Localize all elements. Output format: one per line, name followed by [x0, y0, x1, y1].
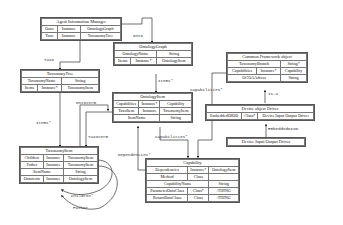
- agent-information-manager-box: Agent Information Manager Onto Instance …: [40, 17, 122, 41]
- field-name: Method: [147, 174, 188, 181]
- field-kind: Instance*: [131, 58, 156, 65]
- field-type: TaxonomyItem: [63, 155, 97, 162]
- field-type: String: [160, 115, 192, 122]
- field-name: ReturnDataClass: [147, 195, 188, 202]
- field-name: EmbeddedDIOD: [207, 113, 242, 120]
- field-kind: Class*: [242, 113, 258, 120]
- field-name: TaxonomyName: [22, 78, 62, 85]
- ontology-item-box: OntologyItem Capabilities Instance* Capa…: [112, 92, 193, 123]
- box-title: Device Input Output Driver: [228, 139, 305, 146]
- ontology-graph-box: OntologyGraph OntologyName String Items …: [113, 42, 193, 66]
- field-kind: Class*: [188, 188, 209, 195]
- field-name: Ontoterm: [21, 176, 44, 183]
- field-kind: Instance*: [188, 167, 209, 174]
- field-name: OCOAAdress: [228, 75, 281, 82]
- field-type: Capability: [160, 101, 192, 108]
- field-type: String: [209, 181, 239, 188]
- edge-label-taxo: Taxo: [44, 58, 54, 62]
- field-type: :THING: [209, 188, 239, 195]
- box-title: Capability: [147, 160, 239, 167]
- field-kind: Instance: [43, 162, 63, 169]
- edge-label-embedded-diod: EmbeddedDIOD: [268, 127, 298, 131]
- field-name: Items: [22, 85, 38, 92]
- field-type: TaxonomyItem: [62, 85, 99, 92]
- field-type: OntologyItem: [63, 176, 97, 183]
- field-type: String: [156, 51, 191, 58]
- edge-label-items-onto: Items*: [158, 79, 173, 83]
- edge-label-dependencies: Dependencies*: [118, 153, 151, 157]
- field-type: String: [63, 169, 97, 176]
- field-type: OntologyGraph: [80, 26, 120, 33]
- field-kind: Class: [188, 195, 209, 202]
- field-name: Items: [115, 58, 131, 65]
- edge-capabilities-onto: [160, 127, 188, 157]
- box-title: Agent Information Manager: [42, 19, 121, 26]
- field-name: Father: [21, 162, 44, 169]
- box-title: OntologyGraph: [115, 44, 192, 51]
- field-type: String*: [281, 61, 307, 68]
- field-kind: Instance*: [257, 68, 281, 75]
- edge-label-father: Father: [73, 206, 88, 210]
- box-title: TaxonomyItem: [21, 148, 98, 155]
- field-name: Capabilities: [228, 68, 257, 75]
- edge-label-children: Children*: [71, 194, 94, 198]
- taxonomy-tree-box: TaxonomyTree TaxonomyName String Items I…: [20, 69, 100, 93]
- device-object-driver-box: Device object Driver EmbeddedDIOD Class*…: [205, 104, 315, 121]
- field-kind: Instance: [43, 155, 63, 162]
- field-kind: Instance*: [139, 101, 160, 108]
- field-kind: Instance: [57, 26, 80, 33]
- field-type: OntologyItem: [209, 167, 239, 174]
- field-name: ItemName: [21, 169, 64, 176]
- edge-taxo: [60, 41, 80, 69]
- field-name: Taxo: [42, 33, 58, 40]
- field-type: String: [281, 75, 307, 82]
- field-type: Capability: [281, 68, 307, 75]
- field-name: TaxoItem: [114, 108, 139, 115]
- edge-onto: [122, 18, 152, 42]
- field-kind: Instance: [43, 176, 63, 183]
- field-type: :THING: [209, 195, 239, 202]
- field-name: ItemName: [114, 115, 160, 122]
- edge-label-is-a: Is-a: [268, 92, 278, 96]
- device-input-output-driver-box: Device Input Output Driver: [226, 137, 306, 147]
- taxonomy-item-box: TaxonomyItem Children Instance TaxonomyI…: [19, 146, 99, 184]
- field-type: OntologyItem: [156, 58, 191, 65]
- field-type: TaxonomyItem: [63, 162, 97, 169]
- box-title: Common Framework object: [228, 54, 307, 61]
- box-title: Device object Driver: [207, 106, 314, 113]
- field-name: Onto: [42, 26, 58, 33]
- field-type: TaxonomyItem: [160, 108, 192, 115]
- common-framework-object-box: Common Framework object TaxonomyBranch S…: [226, 52, 308, 83]
- field-name: Capabilities: [114, 101, 139, 108]
- field-kind: Class: [188, 174, 209, 181]
- field-name: CapabilityName: [147, 181, 209, 188]
- box-title: OntologyItem: [114, 94, 192, 101]
- edge-label-ontoterm: Ontoterm: [76, 101, 96, 105]
- capability-box: Capability Dependencies Instance* Ontolo…: [145, 158, 240, 203]
- field-name: TaxonomyBranch: [228, 61, 281, 68]
- field-kind: Instance: [139, 108, 160, 115]
- field-name: Children: [21, 155, 44, 162]
- field-kind: Instance: [57, 33, 80, 40]
- field-kind: Instance*: [37, 85, 61, 92]
- box-title: TaxonomyTree: [22, 71, 99, 78]
- field-type: Device Input Output Driver: [258, 113, 314, 120]
- field-name: ParameterDataClass: [147, 188, 188, 195]
- field-type: TaxonomyTree: [80, 33, 120, 40]
- field-name: OntologyName: [115, 51, 157, 58]
- field-name: Dependencies: [147, 167, 188, 174]
- edge-label-taxoterm: Taxoterm: [88, 135, 108, 139]
- field-type: String: [62, 78, 99, 85]
- edge-label-onto: Onto: [133, 34, 143, 38]
- edge-label-items-tax: Items*: [36, 121, 51, 125]
- edge-label-capabilities-onto: Capabilities*: [155, 135, 188, 139]
- edge-label-capabilities-cfo: Capabilities*: [190, 88, 223, 92]
- field-type: [209, 174, 239, 181]
